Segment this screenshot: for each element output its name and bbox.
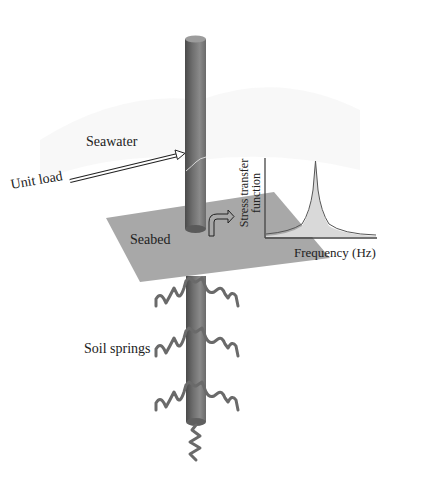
seabed-label: Seabed xyxy=(130,233,170,247)
upper-pile xyxy=(185,36,206,234)
pile-top-cap xyxy=(185,36,206,43)
pile-soil-diagram xyxy=(0,0,424,478)
diagram-stage: Seawater Unit load Seabed Frequency (Hz)… xyxy=(0,0,424,478)
lower-pile xyxy=(186,276,206,426)
seawater-label: Seawater xyxy=(86,135,137,149)
frequency-axis-label: Frequency (Hz) xyxy=(294,246,376,259)
stress-axis-line2: function xyxy=(250,158,262,228)
spring-bottom xyxy=(190,425,200,460)
soil-springs-label: Soil springs xyxy=(84,342,151,356)
stress-transfer-axis-label: Stress transfer function xyxy=(238,158,262,228)
